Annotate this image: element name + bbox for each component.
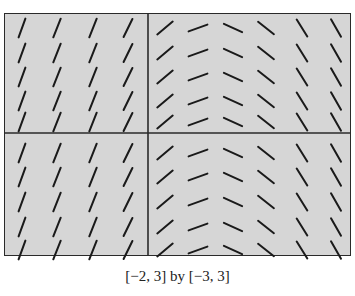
- slope-segment: [157, 147, 172, 160]
- slope-segment: [297, 242, 308, 259]
- slope-segment: [224, 73, 242, 81]
- slope-segment: [258, 116, 274, 128]
- slope-segment: [224, 97, 242, 105]
- slope-segment: [53, 113, 60, 132]
- slope-segment: [89, 113, 96, 132]
- slope-segment: [331, 144, 341, 161]
- slope-segment: [19, 92, 26, 111]
- slope-segment: [297, 219, 308, 236]
- slope-segment: [19, 68, 26, 87]
- slope-segment: [297, 93, 308, 110]
- slope-segment: [19, 168, 26, 187]
- slope-segment: [124, 68, 133, 86]
- slope-segment: [19, 193, 26, 212]
- slope-segment: [19, 144, 26, 163]
- slope-segment: [124, 193, 133, 211]
- slope-segment: [189, 119, 208, 126]
- slope-segment: [19, 113, 26, 132]
- slope-segment: [189, 50, 208, 57]
- slope-segment: [189, 224, 208, 231]
- slope-segment: [157, 244, 172, 257]
- slope-segment: [124, 144, 133, 162]
- slope-segment: [189, 74, 208, 81]
- slope-segment: [89, 68, 96, 87]
- slope-segment: [189, 174, 208, 181]
- slope-segment: [331, 113, 341, 130]
- slope-segment: [157, 22, 172, 35]
- slope-segment: [258, 221, 274, 233]
- slope-segment: [297, 45, 308, 62]
- slope-segment: [124, 168, 133, 186]
- slope-segment: [89, 19, 96, 38]
- slope-segment: [224, 198, 242, 206]
- slope-segment: [157, 221, 172, 234]
- window-caption: [−2, 3] by [−3, 3]: [0, 268, 355, 285]
- slope-segment: [19, 44, 26, 63]
- slope-segment: [53, 19, 60, 38]
- slope-segment: [258, 196, 274, 208]
- slope-segment: [157, 116, 172, 129]
- slope-segment: [189, 199, 208, 206]
- slope-segment: [258, 244, 274, 256]
- slope-segment: [157, 196, 172, 209]
- slope-segment: [189, 247, 208, 254]
- slope-segment: [258, 171, 274, 183]
- slope-segment: [297, 169, 308, 186]
- slope-segment: [224, 173, 242, 181]
- slope-segment: [53, 218, 60, 237]
- slope-segment: [331, 44, 341, 61]
- slope-segment: [297, 114, 308, 131]
- slope-segment: [297, 20, 308, 37]
- slope-segment: [89, 241, 96, 260]
- slope-segment: [258, 22, 274, 34]
- slope-segment: [89, 44, 96, 63]
- slope-segment: [331, 68, 341, 85]
- slope-segment: [331, 92, 341, 109]
- slope-segment: [224, 24, 242, 32]
- slope-segment: [124, 19, 133, 37]
- slope-segment: [53, 44, 60, 63]
- slope-segment: [53, 68, 60, 87]
- slope-segment: [19, 19, 26, 38]
- slope-segment: [331, 19, 341, 36]
- slope-field-segments: [0, 0, 355, 296]
- slope-segment: [124, 241, 133, 259]
- slope-segment: [331, 168, 341, 185]
- slope-segment: [124, 44, 133, 62]
- slope-segment: [157, 47, 172, 60]
- slope-segment: [189, 150, 208, 157]
- slope-segment: [53, 193, 60, 212]
- slope-segment: [224, 49, 242, 57]
- slope-segment: [331, 193, 341, 210]
- slope-segment: [124, 113, 133, 131]
- slope-segment: [189, 25, 208, 32]
- slope-segment: [89, 193, 96, 212]
- slope-segment: [258, 95, 274, 107]
- slope-segment: [224, 118, 242, 126]
- slope-segment: [53, 144, 60, 163]
- slope-segment: [124, 92, 133, 110]
- slope-segment: [331, 218, 341, 235]
- slope-segment: [189, 98, 208, 105]
- slope-segment: [297, 194, 308, 211]
- slope-segment: [89, 92, 96, 111]
- slope-segment: [258, 47, 274, 59]
- slope-segment: [157, 171, 172, 184]
- slope-segment: [224, 246, 242, 254]
- slope-segment: [53, 168, 60, 187]
- slope-segment: [157, 95, 172, 108]
- slope-segment: [19, 241, 26, 260]
- slope-segment: [297, 69, 308, 86]
- slope-segment: [297, 145, 308, 162]
- slope-segment: [331, 241, 341, 258]
- slope-segment: [258, 147, 274, 159]
- slope-segment: [89, 168, 96, 187]
- slope-segment: [157, 71, 172, 84]
- slope-segment: [258, 71, 274, 83]
- slope-segment: [53, 92, 60, 111]
- slope-segment: [224, 223, 242, 231]
- slope-segment: [224, 149, 242, 157]
- slope-segment: [124, 218, 133, 236]
- slope-segment: [89, 218, 96, 237]
- slope-segment: [89, 144, 96, 163]
